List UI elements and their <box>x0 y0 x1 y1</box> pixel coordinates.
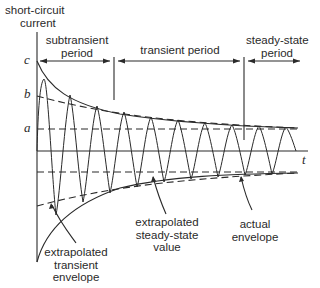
actual-envelope-upper <box>37 61 298 128</box>
level-c-label: c <box>24 54 30 67</box>
time-axis-label: t <box>302 154 306 167</box>
extrapolated-transient-envelope-label: extrapolated transient envelope <box>44 246 108 284</box>
leader-actual-envelope <box>241 177 252 210</box>
transient-period-label: transient period <box>128 44 232 57</box>
y-axis-label: short-circuit current <box>5 4 64 29</box>
subtransient-period-label: subtransient period <box>42 34 112 59</box>
current-waveform <box>37 79 296 215</box>
arrow-head <box>103 59 110 64</box>
extrapolated-steady-state-value-label: extrapolated steady-state value <box>132 216 202 254</box>
level-b-label: b <box>24 88 31 101</box>
steady-state-period-label: steady-state period <box>246 34 308 59</box>
arrow-head <box>118 59 125 64</box>
actual-envelope-label: actual envelope <box>230 218 280 243</box>
arrow-head <box>40 59 47 64</box>
extrapolated-transient-lower <box>37 173 298 206</box>
arrow-head <box>248 59 255 64</box>
arrow-head <box>293 59 300 64</box>
arrow-head <box>233 59 240 64</box>
level-a-label: a <box>24 122 31 135</box>
